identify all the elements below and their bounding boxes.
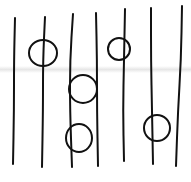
line-3 — [70, 14, 73, 167]
line-7 — [176, 6, 182, 166]
line-5 — [123, 9, 125, 161]
circle-2 — [69, 75, 97, 103]
circle-3 — [108, 38, 130, 60]
line-1 — [13, 18, 15, 164]
hand-drawn-sketch — [0, 0, 191, 182]
circle-5 — [144, 115, 170, 141]
circles — [29, 38, 170, 152]
circle-4 — [66, 124, 92, 152]
